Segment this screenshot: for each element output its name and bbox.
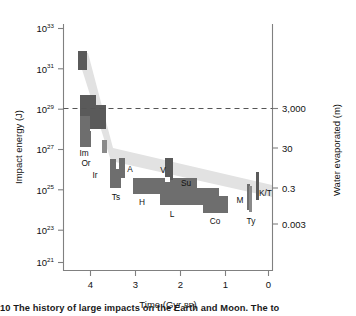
right-axis-tick-labels: 3,000 30 0.3 0.003 (282, 103, 306, 230)
rtick-label-2: 0.3 (282, 183, 295, 194)
x-axis-ticks (91, 271, 269, 277)
ytick-mantissa-6: 10 (37, 257, 48, 268)
ytick-exp-1: 31 (47, 62, 54, 69)
event-label-kt: K/T (259, 188, 272, 198)
right-axis-ticks (273, 109, 279, 225)
event-label-l: L (170, 209, 175, 219)
axes-frame (64, 24, 273, 271)
y-axis-ticks (58, 29, 64, 263)
ytick-exp-0: 33 (47, 22, 54, 29)
ytick-exp-6: 21 (47, 256, 54, 263)
svg-text:1029: 1029 (37, 103, 55, 116)
bar-or2 (80, 131, 91, 147)
ytick-mantissa-3: 10 (37, 144, 48, 155)
event-label-or: Or (81, 158, 90, 168)
bar-top (78, 51, 87, 70)
ytick-mantissa-0: 10 (37, 23, 48, 34)
ytick-exp-3: 27 (47, 143, 54, 150)
rtick-label-1: 30 (282, 143, 293, 154)
event-label-a: A (127, 164, 133, 174)
ytick-exp-2: 29 (47, 103, 54, 110)
svg-text:1027: 1027 (37, 143, 55, 156)
xtick-label-0: 4 (88, 279, 93, 290)
svg-text:1033: 1033 (37, 22, 55, 35)
event-label-ir: Ir (92, 170, 97, 180)
event-label-ts: Ts (112, 192, 120, 202)
rtick-label-0: 3,000 (282, 103, 306, 114)
xtick-label-4: 0 (266, 279, 271, 290)
y-axis-tick-labels: 1033 1031 1029 1027 1025 1023 1021 (37, 22, 55, 269)
svg-text:1021: 1021 (37, 256, 55, 269)
event-label-co: Co (210, 216, 221, 226)
bar-ir (102, 140, 107, 153)
event-label-h: H (139, 197, 145, 207)
xtick-label-1: 3 (133, 279, 138, 290)
y-axis-title: Impact energy (J) (13, 110, 24, 184)
bar-a (119, 158, 125, 178)
rtick-label-3: 0.003 (282, 219, 306, 230)
ytick-mantissa-5: 10 (37, 225, 48, 236)
ytick-exp-4: 25 (47, 183, 54, 190)
ytick-exp-5: 23 (47, 224, 54, 231)
ytick-mantissa-1: 10 (37, 64, 48, 75)
event-label-m: M (237, 195, 244, 205)
event-label-ty: Ty (247, 216, 257, 226)
chart-svg: 1033 1031 1029 1027 1025 1023 1021 3,000… (0, 0, 356, 316)
bar-su (165, 177, 170, 182)
y-axis-title-right: Water evaporated (m) (331, 104, 342, 196)
event-label-su: Su (181, 178, 192, 188)
ytick-mantissa-4: 10 (37, 185, 48, 196)
xtick-label-2: 2 (178, 279, 183, 290)
envelope-band (79, 53, 272, 197)
xtick-label-3: 1 (223, 279, 228, 290)
figure-caption: 10 The history of large impacts on the E… (0, 303, 356, 313)
bar-v (165, 158, 173, 180)
bar-co (203, 196, 228, 213)
svg-text:1025: 1025 (37, 183, 55, 196)
x-axis-tick-labels: 4 3 2 1 0 (88, 279, 271, 290)
ytick-mantissa-2: 10 (37, 104, 48, 115)
bar-ts2 (110, 159, 116, 173)
svg-text:1031: 1031 (37, 62, 55, 75)
event-label-v: V (160, 165, 166, 175)
bar-ty (249, 186, 252, 212)
svg-text:1023: 1023 (37, 224, 55, 237)
event-label-im: Im (79, 148, 88, 158)
impact-history-figure: 1033 1031 1029 1027 1025 1023 1021 3,000… (0, 0, 356, 316)
